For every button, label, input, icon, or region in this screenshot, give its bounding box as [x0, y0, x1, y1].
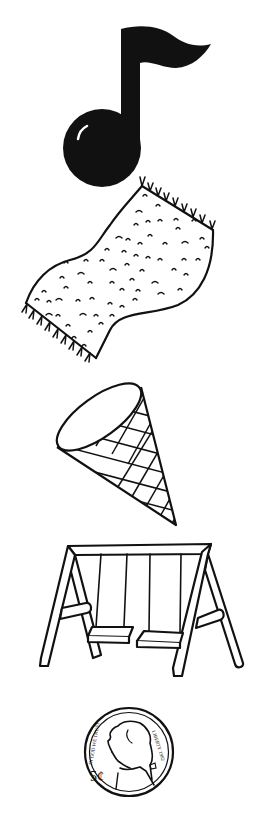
swing-set-icon [0, 530, 258, 695]
nickel-denomination: 5¢ [90, 769, 104, 784]
nickel-right-inscription: LIBERTY 1982 [151, 730, 166, 762]
nickel-icon: 5¢ IN GOD WE TRUST LIBERTY 1982 [0, 695, 258, 820]
swing-set-picture [0, 530, 258, 695]
music-note-icon [0, 0, 258, 190]
picture-sheet: 5¢ IN GOD WE TRUST LIBERTY 1982 [0, 0, 258, 820]
rug-picture [0, 170, 258, 380]
rug-icon [0, 170, 258, 380]
cone-icon [0, 380, 258, 535]
nickel-picture: 5¢ IN GOD WE TRUST LIBERTY 1982 [0, 695, 258, 820]
cone-picture [0, 380, 258, 535]
music-note-picture [0, 0, 258, 190]
